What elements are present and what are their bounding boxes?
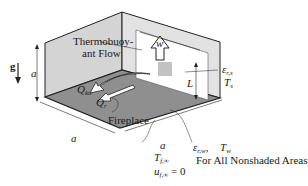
room-fireplace-diagram: g Thermobuoy- ant Flow w L a a a Qku Qr …: [0, 0, 308, 186]
q-ku-label: Qku: [77, 84, 92, 97]
width-symbol: w: [156, 38, 163, 49]
room-width-symbol: a: [71, 133, 77, 144]
thermobuoyant-label-line1: Thermobuoy-: [73, 36, 133, 47]
t-far-label: Tf,∞: [154, 152, 169, 165]
fire-glow: [158, 62, 172, 76]
fireplace-label: Fireplace: [108, 115, 149, 126]
t-fireplace-label: Ts: [224, 77, 233, 90]
gravity-arrow-icon: [15, 77, 21, 84]
room-height-symbol: a: [31, 68, 37, 79]
q-r-label: Qr: [96, 97, 107, 110]
thermobuoyant-label-line2: ant Flow: [82, 48, 121, 59]
room-depth-symbol: a: [160, 140, 166, 151]
gravity-label: g: [10, 61, 16, 72]
nonshaded-note: For All Nonshaded Areas: [196, 155, 308, 166]
u-far-label: uf,∞ = 0: [154, 166, 185, 179]
height-symbol: L: [187, 78, 193, 89]
